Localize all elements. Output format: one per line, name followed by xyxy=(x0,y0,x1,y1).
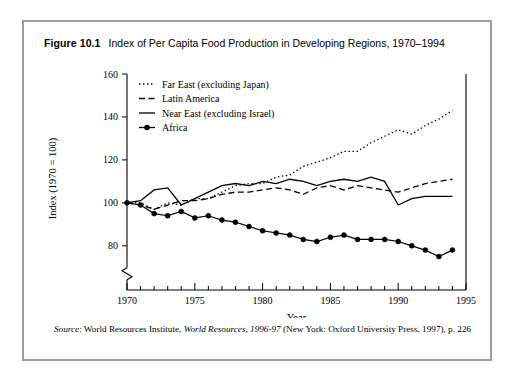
series-marker-3 xyxy=(423,248,428,253)
series-marker-3 xyxy=(192,215,197,220)
series-marker-3 xyxy=(179,209,184,214)
legend-label-3: Africa xyxy=(162,122,188,133)
y-axis-title: Index (1970 = 100) xyxy=(47,137,59,219)
series-marker-3 xyxy=(436,254,441,259)
figure-caption-text: Index of Per Capita Food Production in D… xyxy=(109,36,459,50)
series-marker-3 xyxy=(341,233,346,238)
series-marker-3 xyxy=(206,213,211,218)
source-text: : World Resources Institute, World Resou… xyxy=(79,324,471,334)
source-note: Source: World Resources Institute, World… xyxy=(54,323,474,336)
x-tick-label: 1975 xyxy=(185,295,205,306)
line-chart: 80100120140160197019751980198519901995Ye… xyxy=(24,66,490,318)
series-marker-3 xyxy=(450,248,455,253)
series-marker-3 xyxy=(125,200,130,205)
y-tick-label: 80 xyxy=(108,240,118,251)
figure-label: Figure 10.1 xyxy=(44,37,101,49)
series-line-3 xyxy=(127,203,452,257)
series-marker-3 xyxy=(355,237,360,242)
source-prefix: Source xyxy=(54,324,79,334)
legend-label-2: Near East (excluding Israel) xyxy=(162,108,274,120)
series-marker-3 xyxy=(138,203,143,208)
x-tick-label: 1995 xyxy=(456,295,476,306)
figure-frame: Figure 10.1Index of Per Capita Food Prod… xyxy=(22,20,492,361)
legend-marker-3 xyxy=(144,125,150,131)
x-tick-label: 1990 xyxy=(388,295,408,306)
series-line-1 xyxy=(127,179,452,209)
series-marker-3 xyxy=(382,237,387,242)
legend-label-1: Latin America xyxy=(162,93,220,104)
series-marker-3 xyxy=(301,237,306,242)
x-tick-label: 1985 xyxy=(320,295,340,306)
series-line-2 xyxy=(127,177,452,205)
x-axis-title: Year xyxy=(287,312,307,318)
figure-caption: Figure 10.1Index of Per Capita Food Prod… xyxy=(44,36,474,50)
series-marker-3 xyxy=(396,239,401,244)
series-marker-3 xyxy=(233,220,238,225)
series-marker-3 xyxy=(165,213,170,218)
series-marker-3 xyxy=(219,218,224,223)
y-axis-break xyxy=(122,268,132,280)
y-tick-label: 100 xyxy=(103,197,118,208)
chart-plot-area: 80100120140160197019751980198519901995Ye… xyxy=(24,66,490,318)
series-marker-3 xyxy=(274,230,279,235)
y-tick-label: 140 xyxy=(103,111,118,122)
series-marker-3 xyxy=(409,243,414,248)
series-marker-3 xyxy=(247,224,252,229)
series-marker-3 xyxy=(260,228,265,233)
y-tick-label: 120 xyxy=(103,154,118,165)
series-marker-3 xyxy=(369,237,374,242)
series-marker-3 xyxy=(152,211,157,216)
legend-label-0: Far East (excluding Japan) xyxy=(162,79,269,91)
x-tick-label: 1980 xyxy=(253,295,273,306)
series-marker-3 xyxy=(328,235,333,240)
series-marker-3 xyxy=(314,239,319,244)
x-tick-label: 1970 xyxy=(117,295,137,306)
y-tick-label: 160 xyxy=(103,69,118,80)
series-marker-3 xyxy=(287,233,292,238)
